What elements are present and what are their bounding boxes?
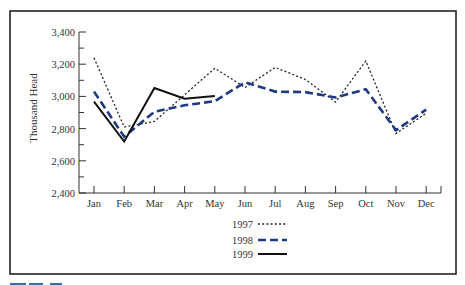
legend-label: 1999 xyxy=(232,249,253,260)
y-tick-label: 2,400 xyxy=(51,188,75,199)
y-tick-label: 3,200 xyxy=(51,59,75,70)
y-axis-title: Thousand Head xyxy=(27,73,39,143)
x-tick-label: Dec xyxy=(418,198,435,209)
line-chart: 2,4002,6002,8003,0003,2003,400 JanFebMar… xyxy=(0,0,465,285)
x-tick-label: Jun xyxy=(238,198,253,209)
x-tick-label: Feb xyxy=(116,198,132,209)
y-tick-label: 3,400 xyxy=(51,27,75,38)
y-tick-label: 2,800 xyxy=(51,124,75,135)
x-tick-label: Jul xyxy=(269,198,281,209)
x-tick-label: Nov xyxy=(387,198,406,209)
x-tick-label: Aug xyxy=(296,198,315,209)
y-tick-label: 3,000 xyxy=(51,91,75,102)
x-tick-label: Jan xyxy=(87,198,102,209)
legend-label: 1997 xyxy=(232,219,253,230)
x-tick-label: Mar xyxy=(146,198,164,209)
y-tick-label: 2,600 xyxy=(51,156,75,167)
x-tick-label: Apr xyxy=(176,198,193,209)
x-tick-label: May xyxy=(205,198,225,209)
legend-label: 1998 xyxy=(232,235,253,246)
x-tick-label: Oct xyxy=(358,198,373,209)
x-tick-label: Sep xyxy=(328,198,344,209)
figure-caption-clipped xyxy=(10,281,90,285)
